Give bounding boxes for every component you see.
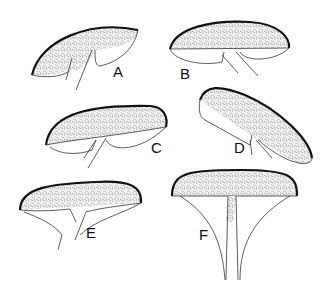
panel-c: C [46, 106, 167, 168]
panel-label-f: F [199, 226, 208, 243]
panel-label-b: B [180, 65, 190, 82]
panel-label-e: E [86, 224, 96, 241]
panel-a: A [32, 27, 138, 90]
panel-label-c: C [151, 139, 162, 156]
panel-d: D [199, 88, 312, 164]
panel-label-a: A [113, 63, 123, 80]
panel-f: F [172, 170, 297, 280]
panel-e: E [20, 182, 141, 250]
panel-label-d: D [234, 139, 245, 156]
panel-b: B [170, 22, 289, 82]
cap-c [46, 106, 167, 145]
diagram-figure: A B C D E [0, 0, 328, 290]
